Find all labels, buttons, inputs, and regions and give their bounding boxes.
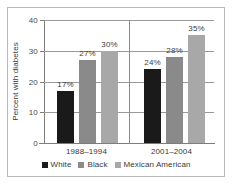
bar: 24% <box>144 69 161 143</box>
bar: 27% <box>79 60 96 143</box>
y-axis-tick-label: 30 <box>29 46 38 55</box>
legend-entry: Mexican American <box>115 160 191 169</box>
bar: 28% <box>166 57 183 143</box>
chart-figure: Percent with diabetes 010203040 17%27%30… <box>7 7 225 177</box>
legend-entry: Black <box>78 160 107 169</box>
bar-value-label: 24% <box>144 58 160 67</box>
y-axis-tick-mark <box>40 51 44 52</box>
y-axis-tick-label: 10 <box>29 108 38 117</box>
y-axis-tick-label: 0 <box>33 139 38 148</box>
x-axis-category-label: 1988–1994 <box>44 147 129 156</box>
bar: 35% <box>188 35 205 143</box>
y-axis-title: Percent with diabetes <box>10 20 22 143</box>
y-axis-tick-mark <box>40 20 44 21</box>
legend-swatch-icon <box>115 162 121 168</box>
bar-value-label: 27% <box>79 49 95 58</box>
bar-value-label: 17% <box>57 80 73 89</box>
legend-label: Mexican American <box>124 160 191 169</box>
group-separator-line <box>129 20 130 144</box>
bar: 30% <box>101 51 118 143</box>
y-axis-tick-label: 20 <box>29 77 38 86</box>
y-axis-tick-mark <box>40 112 44 113</box>
bar-value-label: 30% <box>101 40 117 49</box>
legend-label: White <box>51 160 72 169</box>
bar: 17% <box>57 91 74 143</box>
x-axis-line <box>39 143 215 144</box>
legend-swatch-icon <box>42 162 48 168</box>
legend-swatch-icon <box>78 162 84 168</box>
bar-value-label: 28% <box>166 46 182 55</box>
y-axis-tick-mark <box>40 82 44 83</box>
legend-label: Black <box>87 160 107 169</box>
y-axis-tick-mark <box>40 143 44 144</box>
chart-legend: WhiteBlackMexican American <box>8 160 224 169</box>
y-axis-tick-label: 40 <box>29 16 38 25</box>
bar-value-label: 35% <box>188 24 204 33</box>
legend-entry: White <box>42 160 72 169</box>
x-axis-category-label: 2001–2004 <box>129 147 214 156</box>
